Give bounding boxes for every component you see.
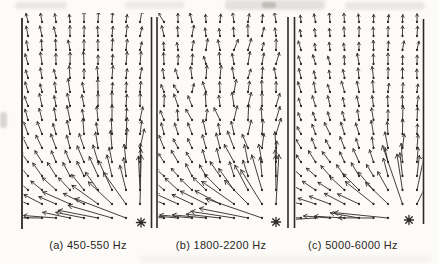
source-asterisk (136, 218, 145, 227)
source-asterisk (271, 217, 280, 226)
vector-field-canvas (0, 0, 438, 264)
source-asterisk (404, 215, 413, 224)
panel-b-caption: (b) 1800-2200 Hz (176, 239, 266, 251)
panel-a-caption: (a) 450-550 Hz (49, 239, 127, 251)
panel-c-caption: (c) 5000-6000 Hz (308, 239, 398, 251)
figure: (a) 450-550 Hz (b) 1800-2200 Hz (c) 5000… (0, 0, 438, 264)
